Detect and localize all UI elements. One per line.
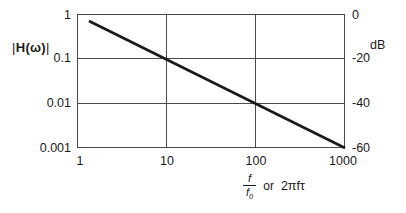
fraction-numerator: f bbox=[245, 173, 254, 185]
y-axis-right-labels: 0 -20 -40 -60 bbox=[352, 0, 406, 213]
x-axis-conjunction: or bbox=[263, 179, 274, 193]
x-tick-label-10: 10 bbox=[160, 155, 174, 168]
x-axis-labels: 1 10 100 1000 bbox=[0, 0, 406, 213]
db-tick-label-m40: -40 bbox=[352, 97, 370, 110]
fraction-denominator-subscript: 0 bbox=[249, 192, 253, 201]
bode-magnitude-figure: 1 0.1 0.01 0.001 |H(ω)| 1 10 100 1000 0 … bbox=[0, 0, 406, 213]
fraction-denominator: f0 bbox=[243, 187, 256, 201]
frequency-ratio-fraction: f f0 bbox=[243, 173, 256, 201]
x-axis-title: f f0 or 2πfτ bbox=[243, 172, 305, 200]
db-tick-label-m60: -60 bbox=[352, 142, 370, 155]
x-tick-label-1: 1 bbox=[77, 155, 84, 168]
x-tick-label-100: 100 bbox=[246, 155, 267, 168]
db-tick-label-m20: -20 bbox=[352, 52, 370, 65]
y-axis-right-title: dB bbox=[370, 38, 385, 52]
db-tick-label-0: 0 bbox=[352, 9, 359, 22]
x-axis-alt-expression: 2πfτ bbox=[281, 179, 305, 193]
